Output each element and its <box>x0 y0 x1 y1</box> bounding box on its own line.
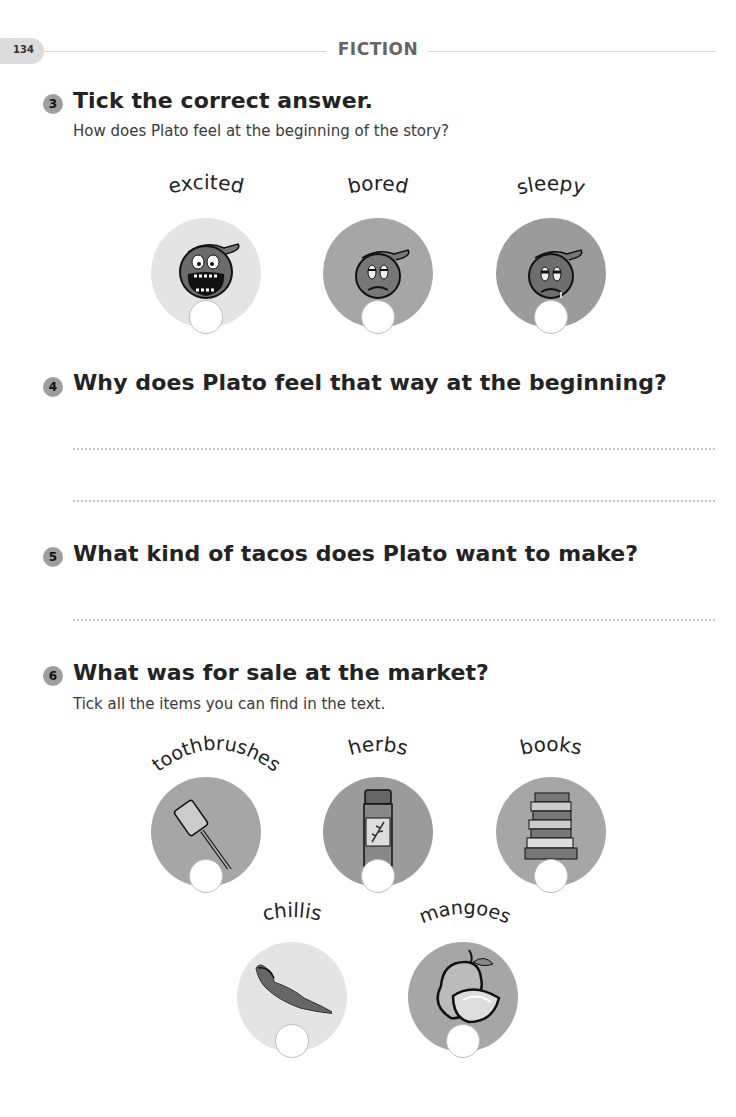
svg-text:toothbrushes: toothbrushes <box>148 732 285 777</box>
question-4-title: Why does Plato feel that way at the begi… <box>73 370 667 395</box>
option-bored: bored <box>323 168 433 318</box>
svg-text:chillis: chillis <box>260 898 324 926</box>
books-stack-icon <box>511 789 591 869</box>
svg-text:books: books <box>518 732 585 760</box>
svg-text:herbs: herbs <box>346 732 411 760</box>
question-6-subtitle: Tick all the items you can find in the t… <box>73 695 385 713</box>
header-divider-left <box>44 51 326 52</box>
chilli-icon <box>252 954 332 1034</box>
option-toothbrushes: toothbrushes <box>151 727 261 877</box>
tick-box-excited[interactable] <box>189 300 223 334</box>
page-number: 134 <box>13 44 34 55</box>
option-label-herbs: herbs <box>303 727 453 767</box>
answer-line-q4-1[interactable] <box>73 448 715 450</box>
option-label-bored: bored <box>303 168 453 208</box>
svg-text:sleepy: sleepy <box>514 171 588 200</box>
question-3-number-badge: 3 <box>43 94 63 114</box>
header-divider-right <box>428 51 716 52</box>
option-chillis: chillis <box>237 892 347 1042</box>
option-label-toothbrushes: toothbrushes <box>126 721 296 785</box>
tick-box-toothbrushes[interactable] <box>189 859 223 893</box>
option-books: books <box>496 727 606 877</box>
svg-text:mangoes: mangoes <box>416 896 515 929</box>
question-3-subtitle: How does Plato feel at the beginning of … <box>73 122 449 140</box>
tick-box-sleepy[interactable] <box>534 300 568 334</box>
option-label-chillis: chillis <box>217 892 367 932</box>
mango-icon <box>423 946 503 1026</box>
page-header: 134 FICTION <box>0 38 736 64</box>
answer-line-q5-1[interactable] <box>73 619 715 621</box>
question-5-title: What kind of tacos does Plato want to ma… <box>73 541 638 566</box>
option-herbs: herbs <box>323 727 433 877</box>
toothbrush-icon <box>166 789 246 869</box>
option-label-excited: excited <box>131 168 281 208</box>
tick-box-bored[interactable] <box>361 300 395 334</box>
excited-face-icon <box>166 230 246 310</box>
option-label-sleepy: sleepy <box>476 168 626 208</box>
sleepy-face-icon <box>511 230 591 310</box>
section-title: FICTION <box>330 39 426 59</box>
svg-text:excited: excited <box>166 170 246 198</box>
option-excited: excited <box>151 168 261 318</box>
option-sleepy: sleepy <box>496 168 606 318</box>
option-mangoes: mangoes <box>408 892 518 1042</box>
question-5-number-badge: 5 <box>43 547 63 567</box>
question-4-number-badge: 4 <box>43 377 63 397</box>
question-6-number-badge: 6 <box>43 666 63 686</box>
option-label-mangoes: mangoes <box>386 888 540 936</box>
question-6-title: What was for sale at the market? <box>73 660 489 685</box>
tick-box-mangoes[interactable] <box>446 1024 480 1058</box>
bored-face-icon <box>338 230 418 310</box>
question-3-title: Tick the correct answer. <box>73 88 373 113</box>
tick-box-chillis[interactable] <box>275 1024 309 1058</box>
svg-text:bored: bored <box>346 171 411 199</box>
option-label-books: books <box>476 727 626 767</box>
answer-line-q4-2[interactable] <box>73 500 715 502</box>
page-number-tab: 134 <box>0 38 44 64</box>
